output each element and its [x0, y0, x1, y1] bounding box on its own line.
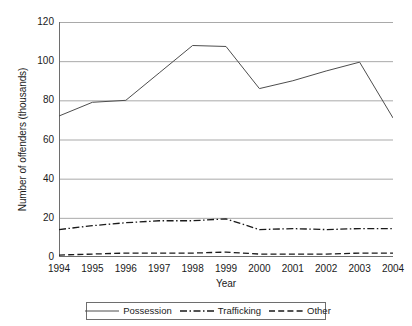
plot-area: [59, 22, 393, 257]
x-axis-title: Year: [59, 278, 393, 290]
y-axis-tick-label: 40: [26, 174, 54, 184]
x-axis-tick-label: 2004: [376, 263, 410, 275]
x-axis-tick-label: 1995: [75, 263, 109, 275]
series-line-trafficking: [59, 219, 393, 230]
x-axis-tick-label: 1999: [209, 263, 243, 275]
legend-line-swatch: [85, 306, 119, 316]
y-axis-tick-label: 120: [26, 17, 54, 27]
plot-svg: [59, 22, 393, 257]
x-axis-tick-label: 1996: [109, 263, 143, 275]
series-line-other: [59, 252, 393, 255]
y-axis-tick-label: 0: [26, 252, 54, 262]
y-axis-tick-label: 100: [26, 56, 54, 66]
x-axis-tick-label: 2001: [276, 263, 310, 275]
line-chart: Number of offenders (thousands) 12010080…: [0, 0, 412, 326]
x-axis-tick-label: 1997: [142, 263, 176, 275]
x-axis-tick-label: 2003: [343, 263, 377, 275]
legend-item[interactable]: Other: [263, 303, 333, 319]
x-axis-tick-label: 1998: [176, 263, 210, 275]
x-axis-tick-label: 2000: [242, 263, 276, 275]
y-axis-tick-label: 80: [26, 95, 54, 105]
legend-item[interactable]: Possession: [79, 303, 174, 319]
x-axis-tick-labels: 1994199519961997199819992000200120022003…: [59, 263, 393, 277]
legend-line-swatch: [269, 306, 303, 316]
legend-label: Trafficking: [218, 306, 263, 316]
legend-label: Other: [307, 306, 333, 316]
x-axis-tick-label: 1994: [42, 263, 76, 275]
legend-line-swatch: [180, 306, 214, 316]
chart-legend: PossessionTraffickingOther: [86, 302, 326, 320]
legend-item[interactable]: Trafficking: [174, 303, 263, 319]
series-line-possession: [59, 46, 393, 118]
legend-label: Possession: [123, 306, 174, 316]
y-axis-tick-label: 20: [26, 213, 54, 223]
x-axis-tick-label: 2002: [309, 263, 343, 275]
y-axis-tick-labels: 120100806040200: [24, 0, 54, 326]
y-axis-tick-label: 60: [26, 135, 54, 145]
